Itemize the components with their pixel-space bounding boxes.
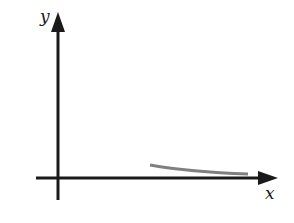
y-axis-label: y	[40, 8, 50, 25]
y-axis-arrow-icon	[51, 12, 65, 32]
coordinate-diagram: y x	[0, 0, 294, 223]
decay-curve	[150, 165, 248, 174]
x-axis-label: x	[265, 185, 275, 202]
axes-svg	[0, 0, 294, 223]
